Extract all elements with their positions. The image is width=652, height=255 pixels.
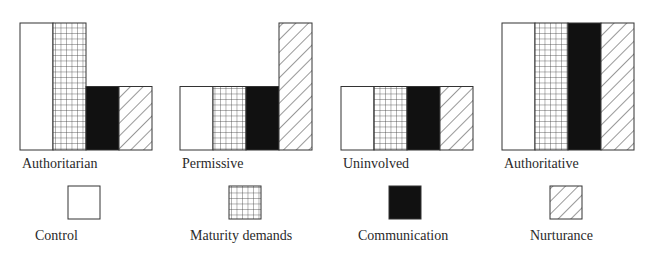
panel-permissive: Permissive: [180, 23, 312, 171]
legend-item-communication: Communication: [358, 186, 448, 243]
legend-item-nurturance: Nurturance: [530, 186, 593, 243]
category-label: Authoritarian: [22, 156, 97, 171]
legend-label: Nurturance: [530, 228, 593, 243]
bar-communication: [407, 87, 440, 151]
legend-item-maturity-demands: Maturity demands: [190, 186, 292, 243]
legend-label: Control: [35, 228, 78, 243]
bar-control: [341, 87, 374, 151]
panel-authoritarian: Authoritarian: [20, 23, 152, 171]
category-label: Uninvolved: [343, 156, 409, 171]
legend-label: Communication: [358, 228, 448, 243]
bar-maturity-demands: [213, 87, 246, 151]
bar-maturity-demands: [535, 23, 568, 150]
legend-swatch: [550, 186, 582, 219]
bar-maturity-demands: [374, 87, 407, 151]
bar-communication: [86, 87, 119, 151]
bar-communication: [568, 23, 601, 150]
panel-authoritative: Authoritative: [502, 23, 634, 171]
bar-nurturance: [119, 87, 152, 151]
legend-swatch: [389, 186, 421, 219]
category-label: Authoritative: [504, 156, 579, 171]
bar-nurturance: [279, 23, 312, 150]
legend: ControlMaturity demandsCommunicationNurt…: [35, 186, 593, 243]
parenting-styles-chart: AuthoritarianPermissiveUninvolvedAuthori…: [0, 0, 652, 255]
bar-control: [502, 23, 535, 150]
bar-nurturance: [601, 23, 634, 150]
bar-communication: [246, 87, 279, 151]
legend-swatch: [229, 186, 261, 219]
legend-label: Maturity demands: [190, 228, 292, 243]
legend-swatch: [68, 186, 100, 219]
category-label: Permissive: [182, 156, 243, 171]
bar-control: [180, 87, 213, 151]
legend-item-control: Control: [35, 186, 100, 243]
style-panels: AuthoritarianPermissiveUninvolvedAuthori…: [20, 23, 634, 171]
panel-uninvolved: Uninvolved: [341, 87, 473, 172]
bar-maturity-demands: [53, 23, 86, 150]
bar-control: [20, 23, 53, 150]
bar-nurturance: [440, 87, 473, 151]
